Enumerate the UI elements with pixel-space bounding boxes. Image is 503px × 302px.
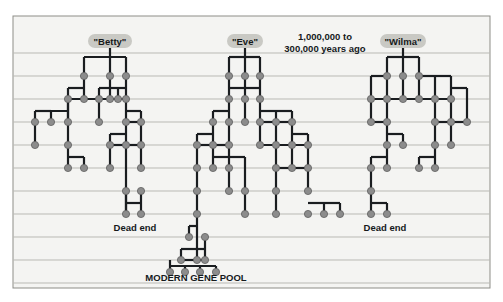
lineage-node	[304, 164, 311, 171]
lineage-node	[241, 210, 248, 217]
lineage-node	[431, 118, 438, 125]
lineage-node	[431, 164, 438, 171]
lineage-node	[193, 256, 200, 263]
lineage-node	[367, 95, 374, 102]
lineage-node	[137, 187, 144, 194]
lineage-node	[431, 95, 438, 102]
lineage-node	[336, 210, 343, 217]
lineage-node	[225, 164, 232, 171]
lineage-node	[80, 164, 87, 171]
lineage-node	[122, 187, 129, 194]
lineage-node	[383, 164, 390, 171]
lineage-node	[137, 141, 144, 148]
lineage-node	[367, 187, 374, 194]
lineage-node	[209, 118, 216, 125]
lineage-node	[272, 141, 279, 148]
ancestor-pill-wilma-text: "Wilma"	[385, 36, 422, 47]
lineage-node	[431, 141, 438, 148]
lineage-node	[64, 95, 71, 102]
lineage-diagram-svg: "Betty""Eve""Wilma" 1,000,000 to300,000 …	[0, 0, 503, 302]
dead-end-label-right-line: Dead end	[364, 222, 407, 233]
lineage-node	[415, 72, 422, 79]
lineage-node	[122, 141, 129, 148]
lineage-node	[241, 72, 248, 79]
lineage-node	[201, 233, 208, 240]
lineage-node	[272, 187, 279, 194]
lineage-node	[367, 118, 374, 125]
lineage-node	[241, 118, 248, 125]
lineage-node	[399, 72, 406, 79]
lineage-node	[256, 95, 263, 102]
lineage-node	[225, 141, 232, 148]
lineage-node	[304, 141, 311, 148]
lineage-node	[137, 118, 144, 125]
modern-gene-pool-label: MODERN GENE POOL	[145, 272, 247, 283]
lineage-node	[122, 72, 129, 79]
modern-gene-pool-label-line: MODERN GENE POOL	[145, 272, 247, 283]
lineage-node	[122, 95, 129, 102]
lineage-node	[193, 187, 200, 194]
dead-end-label-right: Dead end	[364, 222, 407, 233]
dead-end-label-left: Dead end	[114, 222, 157, 233]
dead-end-label-left-line: Dead end	[114, 222, 157, 233]
lineage-node	[122, 118, 129, 125]
lineage-node	[288, 164, 295, 171]
lineage-node	[209, 164, 216, 171]
lineage-node	[47, 118, 54, 125]
lineage-node	[114, 95, 121, 102]
lineage-node	[225, 72, 232, 79]
lineage-node	[256, 141, 263, 148]
lineage-node	[447, 95, 454, 102]
lineage-node	[399, 95, 406, 102]
lineage-node	[106, 164, 113, 171]
lineage-node	[399, 141, 406, 148]
lineage-node	[64, 118, 71, 125]
lineage-node	[106, 141, 113, 148]
lineage-node	[201, 256, 208, 263]
lineage-node	[209, 141, 216, 148]
lineage-node	[225, 95, 232, 102]
lineage-node	[447, 118, 454, 125]
lineage-node	[225, 118, 232, 125]
lineage-node	[64, 164, 71, 171]
lineage-node	[367, 164, 374, 171]
lineage-node	[31, 118, 38, 125]
lineage-node	[106, 72, 113, 79]
lineage-node	[137, 164, 144, 171]
lineage-node	[241, 95, 248, 102]
lineage-node	[288, 118, 295, 125]
ancestor-pill-betty: "Betty"	[88, 34, 132, 48]
lineage-node	[193, 141, 200, 148]
lineage-node	[80, 72, 87, 79]
time-span-annotation-line: 1,000,000 to	[298, 31, 352, 42]
lineage-node	[31, 141, 38, 148]
lineage-figure: "Betty""Eve""Wilma" 1,000,000 to300,000 …	[0, 0, 503, 302]
lineage-node	[304, 210, 311, 217]
lineage-node	[288, 141, 295, 148]
lineage-node	[80, 95, 87, 102]
lineage-node	[415, 164, 422, 171]
ancestor-pill-eve: "Eve"	[227, 34, 263, 48]
lineage-node	[185, 233, 192, 240]
lineage-node	[137, 210, 144, 217]
lineage-node	[383, 141, 390, 148]
lineage-node	[320, 210, 327, 217]
lineage-node	[106, 95, 113, 102]
lineage-node	[383, 118, 390, 125]
ancestor-pill-eve-text: "Eve"	[232, 36, 258, 47]
lineage-node	[64, 141, 71, 148]
ancestor-pill-betty-text: "Betty"	[94, 36, 127, 47]
lineage-node	[383, 210, 390, 217]
lineage-node	[193, 210, 200, 217]
lineage-node	[122, 210, 129, 217]
lineage-node	[225, 187, 232, 194]
lineage-node	[447, 141, 454, 148]
time-span-annotation-line: 300,000 years ago	[284, 43, 366, 54]
lineage-node	[304, 187, 311, 194]
lineage-node	[177, 256, 184, 263]
lineage-node	[272, 210, 279, 217]
lineage-node	[463, 118, 470, 125]
lineage-node	[272, 118, 279, 125]
lineage-node	[241, 187, 248, 194]
lineage-node	[272, 164, 279, 171]
